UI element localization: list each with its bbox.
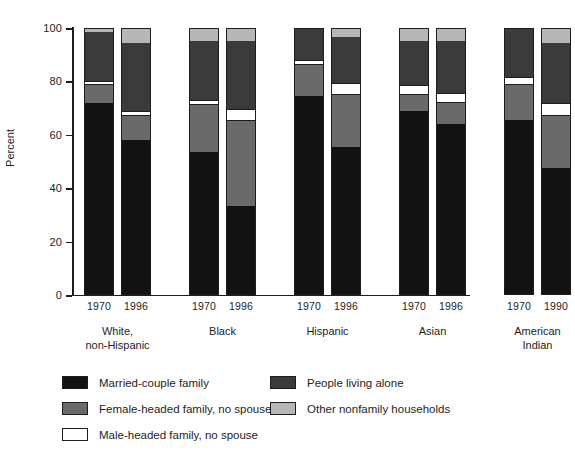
x-axis-tick-label: 1970	[289, 300, 329, 312]
legend-swatch	[62, 402, 88, 415]
bar-segment-alone[interactable]	[189, 41, 219, 100]
bar-stack[interactable]	[541, 28, 571, 295]
y-axis-tick-label: 100	[43, 22, 62, 34]
x-axis-tick-label: 1970	[184, 300, 224, 312]
bar-segment-other[interactable]	[436, 28, 466, 41]
bar-segment-female[interactable]	[399, 95, 429, 111]
group-label-line: Hispanic	[268, 325, 388, 339]
bar-segment-male[interactable]	[541, 103, 571, 116]
bar-stack[interactable]	[84, 28, 114, 295]
bar-segment-married[interactable]	[84, 103, 114, 295]
x-axis-group-label: Asian	[373, 325, 493, 339]
y-axis-tick-label: 60	[50, 129, 62, 141]
bar-stack[interactable]	[436, 28, 466, 295]
legend-item[interactable]: Other nonfamily households	[270, 402, 450, 415]
legend-swatch	[62, 428, 88, 441]
bar-segment-female[interactable]	[294, 65, 324, 96]
bar-segment-married[interactable]	[189, 152, 219, 295]
bar-segment-female[interactable]	[504, 85, 534, 120]
bar-segment-other[interactable]	[189, 28, 219, 41]
group-label-line: Black	[163, 325, 283, 339]
bar-segment-married[interactable]	[121, 140, 151, 295]
legend-swatch	[270, 376, 296, 389]
bar-segment-male[interactable]	[399, 85, 429, 94]
bar-segment-male[interactable]	[331, 83, 361, 95]
bar-segment-married[interactable]	[226, 206, 256, 295]
x-axis-tick-label: 1996	[326, 300, 366, 312]
legend-label: Other nonfamily households	[307, 403, 450, 415]
x-axis-tick-label: 1970	[499, 300, 539, 312]
y-axis-tick-label: 0	[56, 289, 62, 301]
bar-stack[interactable]	[189, 28, 219, 295]
bar-segment-alone[interactable]	[504, 29, 534, 77]
bar-segment-other[interactable]	[331, 28, 361, 37]
bar-segment-female[interactable]	[121, 116, 151, 140]
legend-item[interactable]: People living alone	[270, 376, 404, 389]
bar-segment-married[interactable]	[331, 147, 361, 295]
bar-segment-male[interactable]	[436, 93, 466, 102]
bar-segment-other[interactable]	[226, 28, 256, 41]
bar-segment-other[interactable]	[541, 28, 571, 43]
y-axis-tick-label: 20	[50, 236, 62, 248]
bar-segment-alone[interactable]	[226, 41, 256, 109]
x-axis-group-label: Black	[163, 325, 283, 339]
bar-segment-married[interactable]	[541, 168, 571, 295]
legend-item[interactable]: Married-couple family	[62, 376, 209, 389]
legend-swatch	[62, 376, 88, 389]
bar-segment-male[interactable]	[504, 77, 534, 85]
bar-stack[interactable]	[504, 28, 534, 295]
bar-stack[interactable]	[121, 28, 151, 295]
x-axis-tick-label: 1996	[116, 300, 156, 312]
bar-segment-alone[interactable]	[294, 29, 324, 60]
bar-segment-married[interactable]	[504, 120, 534, 295]
bar-segment-married[interactable]	[399, 111, 429, 295]
legend-label: Male-headed family, no spouse	[99, 429, 258, 441]
bar-segment-married[interactable]	[294, 96, 324, 295]
group-label-line: Asian	[373, 325, 493, 339]
x-axis-tick-label: 1996	[221, 300, 261, 312]
y-axis-tick-label: 80	[50, 75, 62, 87]
chart-legend: Married-couple familyPeople living alone…	[0, 376, 486, 452]
legend-label: People living alone	[307, 377, 404, 389]
x-axis-tick-label: 1990	[536, 300, 575, 312]
bar-segment-male[interactable]	[226, 109, 256, 121]
legend-label: Female-headed family, no spouse	[99, 403, 271, 415]
bar-segment-female[interactable]	[541, 116, 571, 168]
x-axis-group-label: White,non-Hispanic	[58, 325, 178, 352]
bar-stack[interactable]	[294, 28, 324, 295]
bar-segment-female[interactable]	[84, 85, 114, 102]
bar-segment-other[interactable]	[399, 28, 429, 41]
bar-segment-female[interactable]	[226, 121, 256, 205]
bar-segment-alone[interactable]	[436, 41, 466, 93]
legend-item[interactable]: Female-headed family, no spouse	[62, 402, 271, 415]
legend-label: Married-couple family	[99, 377, 209, 389]
bar-segment-alone[interactable]	[84, 32, 114, 81]
bar-segment-alone[interactable]	[331, 37, 361, 82]
bar-segment-female[interactable]	[436, 103, 466, 124]
bar-segment-female[interactable]	[189, 105, 219, 152]
y-axis-tick-label: 40	[50, 182, 62, 194]
x-axis-tick-label: 1996	[431, 300, 471, 312]
bar-stack[interactable]	[399, 28, 429, 295]
bar-segment-married[interactable]	[436, 124, 466, 295]
group-label-line: American	[478, 325, 575, 339]
bar-segment-other[interactable]	[121, 28, 151, 43]
bar-stack[interactable]	[226, 28, 256, 295]
bar-segment-alone[interactable]	[541, 43, 571, 103]
bar-segment-female[interactable]	[331, 95, 361, 147]
group-label-line: Indian	[478, 339, 575, 353]
group-label-line: non-Hispanic	[58, 339, 178, 353]
x-axis-tick-label: 1970	[394, 300, 434, 312]
plot-area	[74, 28, 468, 295]
legend-swatch	[270, 402, 296, 415]
legend-item[interactable]: Male-headed family, no spouse	[62, 428, 258, 441]
bar-stack[interactable]	[331, 28, 361, 295]
group-label-line: White,	[58, 325, 178, 339]
bar-segment-alone[interactable]	[121, 43, 151, 111]
x-axis-group-label: Hispanic	[268, 325, 388, 339]
x-axis-tick-label: 1970	[79, 300, 119, 312]
x-axis-group-label: AmericanIndian	[478, 325, 575, 352]
bar-segment-alone[interactable]	[399, 41, 429, 85]
y-axis-title: Percent	[4, 129, 16, 167]
